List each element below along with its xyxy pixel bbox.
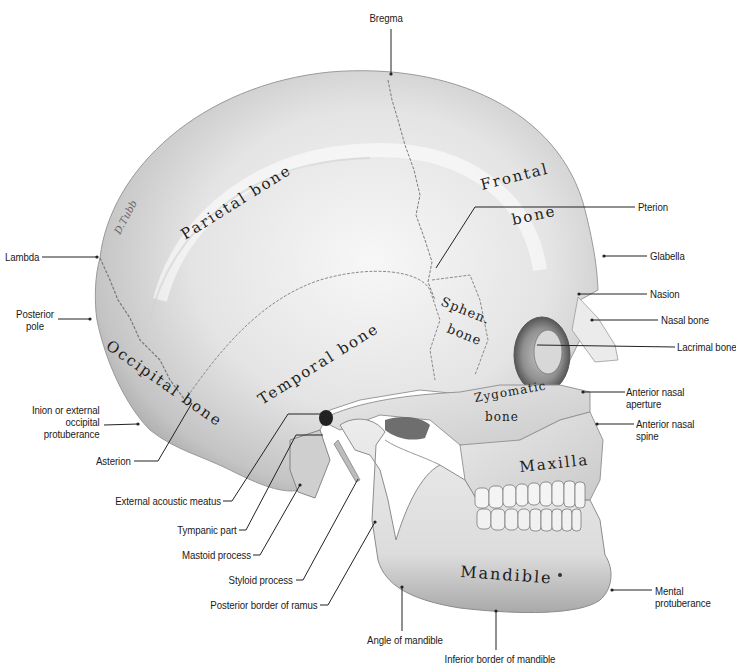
label-nasal-bone: Nasal bone [661,314,709,326]
label-pterion: Pterion [638,201,668,213]
label-anterior-nasal-spine: Anterior nasal spine [636,418,694,442]
label-angle-of-mandible: Angle of mandible [331,634,478,646]
label-styloid-process: Styloid process [229,574,293,586]
label-anterior-nasal-aperture-line2: aperture [626,398,684,410]
label-nasion: Nasion [650,288,680,300]
external-acoustic-meatus [319,410,333,426]
label-inion-line3: protuberance [32,428,100,440]
nasal-bones [572,297,618,362]
label-mental-protuberance-line1: Mental [655,585,711,597]
label-inion-line1: Inion or external [32,404,100,416]
label-lambda: Lambda [5,251,39,263]
zygomatic-bone-name-2: bone [485,410,519,424]
label-inferior-border-of-mandible: Inferior border of mandible [436,653,565,665]
label-tympanic-part: Tympanic part [178,524,237,536]
label-anterior-nasal-spine-line2: spine [636,430,694,442]
label-inion: Inion or external occipital protuberance [32,404,100,440]
label-posterior-pole-line2: pole [12,320,58,332]
label-anterior-nasal-spine-line1: Anterior nasal [636,418,694,430]
label-asterion: Asterion [96,455,131,467]
lower-teeth [477,509,581,531]
label-mental-protuberance-line2: protuberance [655,597,711,609]
label-mastoid-process: Mastoid process [182,549,251,561]
label-anterior-nasal-aperture: Anterior nasal aperture [626,386,684,410]
label-lacrimal-bone: Lacrimal bone [677,341,736,353]
label-external-acoustic-meatus: External acoustic meatus [115,495,221,507]
label-posterior-pole: Posterior pole [12,308,58,332]
label-posterior-pole-line1: Posterior [12,308,58,320]
label-bregma: Bregma [369,12,402,24]
label-anterior-nasal-aperture-line1: Anterior nasal [626,386,684,398]
label-posterior-border-of-ramus: Posterior border of ramus [211,599,318,611]
label-glabella: Glabella [650,250,685,262]
label-mental-protuberance: Mental protuberance [655,585,711,609]
label-inion-line2: occipital [32,416,100,428]
